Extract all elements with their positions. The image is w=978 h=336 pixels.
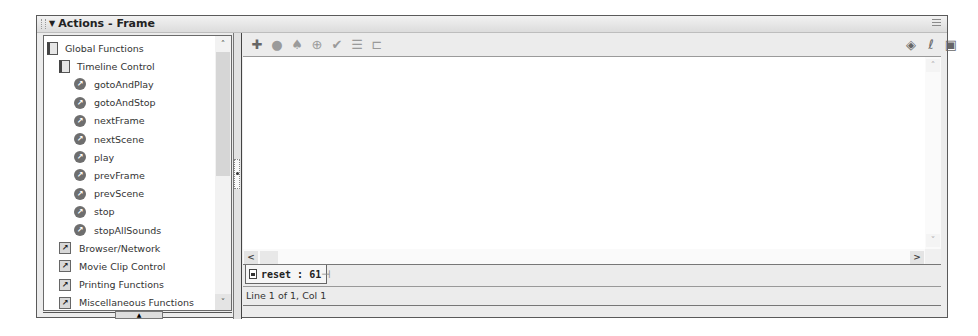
drag-grip-icon[interactable] (41, 19, 46, 29)
frame-icon (249, 269, 257, 279)
folder-arrow-icon: ↗ (59, 260, 71, 272)
tree-item-label: Global Functions (65, 43, 144, 54)
tree-item[interactable]: ↗play (74, 148, 114, 166)
book-icon (47, 42, 58, 55)
scroll-down-icon[interactable]: ˅ (215, 294, 231, 310)
scrollbar-corner (925, 249, 941, 265)
panel-title[interactable]: ▼Actions - Frame (49, 17, 155, 30)
script-toolbar: ✚●♠⊕✔☰⊏◈ℓ▣ (243, 34, 941, 56)
action-circle-icon: ↗ (74, 169, 86, 181)
tree-item[interactable]: ↗nextFrame (74, 112, 145, 130)
editor-scroll-right-icon[interactable]: > (910, 251, 924, 264)
action-circle-icon: ↗ (74, 78, 86, 90)
script-tab-label: reset : 61 (261, 269, 321, 280)
tree-item[interactable]: ↗prevScene (74, 185, 144, 203)
tree-item[interactable]: ↗nextScene (74, 130, 144, 148)
action-circle-icon: ↗ (74, 133, 86, 145)
folder-arrow-icon: ↗ (59, 242, 71, 254)
tree-item-label: stop (94, 206, 115, 217)
tree-item-label: prevFrame (94, 170, 145, 181)
scroll-up-icon[interactable]: ˄ (215, 36, 231, 52)
tree-item-label: Miscellaneous Functions (79, 297, 194, 308)
pin-script-icon[interactable]: ⊣ (321, 268, 331, 281)
tree-item[interactable]: ↗Movie Clip Control (59, 257, 165, 275)
replace-icon[interactable]: ♠ (289, 37, 305, 53)
action-circle-icon: ↗ (74, 151, 86, 163)
tree-item[interactable]: ↗stopAllSounds (74, 221, 161, 239)
toolbox-resize-handle[interactable]: ▲ (43, 312, 232, 317)
tree-item-label: Printing Functions (79, 279, 164, 290)
editor-horizontal-scrollbar[interactable]: < > (243, 249, 925, 265)
folder-arrow-icon: ↗ (59, 297, 71, 309)
tree-item-label: gotoAndStop (94, 97, 156, 108)
action-circle-icon: ↗ (74, 188, 86, 200)
tree-item-label: Browser/Network (79, 243, 160, 254)
tree-item[interactable]: Global Functions (47, 39, 144, 57)
action-circle-icon: ↗ (74, 224, 86, 236)
tree-item-label: stopAllSounds (94, 225, 161, 236)
view-options-icon[interactable]: ▣ (943, 37, 959, 53)
tree-item[interactable]: ↗Printing Functions (59, 276, 164, 294)
tree-item[interactable]: ↗gotoAndPlay (74, 75, 154, 93)
status-bar: Line 1 of 1, Col 1 (243, 286, 941, 306)
action-circle-icon: ↗ (74, 115, 86, 127)
script-tab-strip: reset : 61 ⊣ (243, 264, 941, 285)
actions-panel: ▼Actions - Frame Global FunctionsTimelin… (36, 15, 948, 318)
folder-arrow-icon: ↗ (59, 279, 71, 291)
editor-scroll-up-icon[interactable]: ˄ (926, 59, 940, 72)
panel-menu-icon[interactable] (932, 19, 941, 28)
panel-splitter[interactable] (233, 33, 242, 319)
tree-item-label: prevScene (94, 188, 144, 199)
tree-item-label: gotoAndPlay (94, 79, 154, 90)
editor-hscroll-thumb[interactable] (260, 251, 278, 264)
action-circle-icon: ↗ (74, 97, 86, 109)
collapse-toolbox-button[interactable] (234, 159, 240, 189)
editor-scroll-down-icon[interactable]: ˅ (926, 234, 940, 247)
script-editor[interactable]: ˄ ˅ < > (243, 56, 941, 265)
find-icon[interactable]: ● (269, 37, 285, 53)
editor-vertical-scrollbar[interactable]: ˄ ˅ (925, 57, 941, 249)
action-circle-icon: ↗ (74, 206, 86, 218)
reference-icon[interactable]: ◈ (903, 37, 919, 53)
tree-item[interactable]: Timeline Control (59, 57, 155, 75)
show-code-hint-icon[interactable]: ⊏ (369, 37, 385, 53)
tree-item[interactable]: ↗gotoAndStop (74, 94, 156, 112)
expand-toolbox-button[interactable]: ▲ (115, 311, 163, 319)
script-tab[interactable]: reset : 61 (245, 265, 327, 284)
panel-title-text: Actions - Frame (58, 17, 155, 30)
tree-item[interactable]: ↗Browser/Network (59, 239, 160, 257)
actions-toolbox: Global FunctionsTimeline Control↗gotoAnd… (43, 35, 232, 311)
editor-scroll-left-icon[interactable]: < (244, 251, 258, 264)
toolbox-scrollbar[interactable]: ˄ ˅ (215, 36, 231, 310)
tree-item-label: Movie Clip Control (79, 261, 165, 272)
book-icon (59, 60, 70, 73)
add-statement-icon[interactable]: ✚ (249, 37, 265, 53)
check-syntax-icon[interactable]: ✔ (329, 37, 345, 53)
tree-item-label: nextFrame (94, 115, 145, 126)
tree-item-label: Timeline Control (77, 61, 155, 72)
actions-tree: Global FunctionsTimeline Control↗gotoAnd… (44, 36, 215, 310)
auto-format-icon[interactable]: ☰ (349, 37, 365, 53)
scroll-thumb[interactable] (216, 52, 230, 176)
tree-item[interactable]: ↗Miscellaneous Functions (59, 294, 194, 310)
debug-options-icon[interactable]: ℓ (923, 37, 939, 53)
panel-titlebar[interactable]: ▼Actions - Frame (37, 16, 947, 33)
tree-item-label: nextScene (94, 134, 144, 145)
insert-target-path-icon[interactable]: ⊕ (309, 37, 325, 53)
tree-item-label: play (94, 152, 114, 163)
tree-item[interactable]: ↗prevFrame (74, 166, 145, 184)
tree-item[interactable]: ↗stop (74, 203, 115, 221)
collapse-triangle-icon[interactable]: ▼ (49, 19, 55, 28)
